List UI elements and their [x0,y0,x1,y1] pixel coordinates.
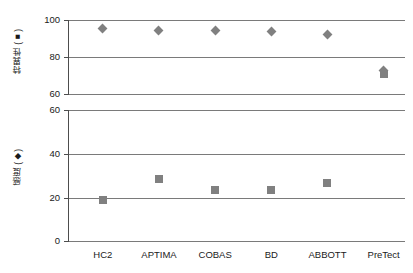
y-axis-title-specificity: 特異性 (■) [14,12,23,90]
datapoint-specificity-cobas [210,26,220,36]
y-axis-title-sensitivity: 感度 (◆) [14,128,23,206]
datapoint-specificity-bd [266,27,276,37]
y-axis-lower [68,110,69,242]
gridline-40 [68,154,405,155]
y-axis-title-specificity-text: 特異性 (■) [13,28,23,73]
gridline-20 [68,198,405,199]
datapoint-sensitivity-bd [267,186,275,194]
datapoint-sensitivity-cobas [211,186,219,194]
ytick-label-40: 40 [34,149,60,159]
gridline-60-lower [68,110,405,111]
gridline-100 [68,20,405,21]
datapoint-specificity-abbott [323,29,333,39]
ytick-label-80: 80 [34,52,60,62]
ytick-label-100: 100 [34,15,60,25]
ytick-label-60-lower: 60 [34,105,60,115]
datapoint-sensitivity-hc2 [99,196,107,204]
tickmark-60-lower [64,110,68,111]
datapoint-sensitivity-abbott [323,179,331,187]
ytick-label-60-upper: 60 [34,89,60,99]
ytick-label-0: 0 [34,236,60,246]
datapoint-specificity-hc2 [98,23,108,33]
datapoint-sensitivity-aptima [155,175,163,183]
tickmark-100 [64,20,68,21]
ytick-label-20: 20 [34,193,60,203]
chart-container: 特異性 (■) 感度 (◆) 100 80 60 60 40 20 0 HC2A… [0,0,413,273]
datapoint-specificity-aptima [154,26,164,36]
datapoint-sensitivity-pretect [380,70,388,78]
tickmark-60-upper [64,94,68,95]
y-axis-upper [68,20,69,95]
y-axis-title-sensitivity-text: 感度 (◆) [13,149,23,185]
x-axis-line [68,241,405,242]
tickmark-80 [64,57,68,58]
tickmark-0 [64,241,68,242]
xtick-label-pretect: PreTect [344,250,413,260]
tickmark-20 [64,198,68,199]
tickmark-40 [64,154,68,155]
gridline-60-upper [68,94,405,95]
gridline-80 [68,57,405,58]
